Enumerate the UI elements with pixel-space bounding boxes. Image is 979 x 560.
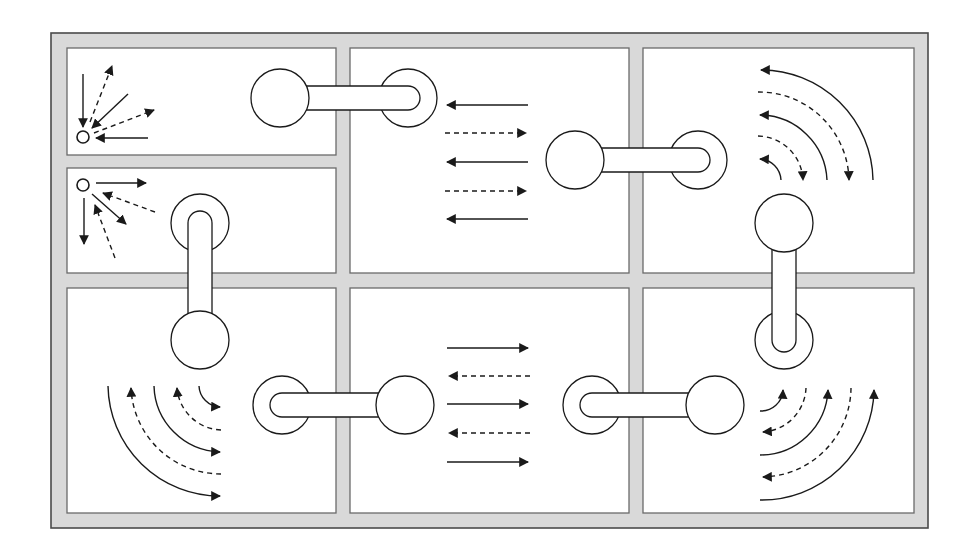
ball-joint	[686, 376, 744, 434]
flow-diagram	[0, 0, 979, 560]
ball-joint	[546, 131, 604, 189]
ball-joint	[171, 311, 229, 369]
ball-joint	[755, 194, 813, 252]
node-diverging	[77, 179, 89, 191]
diagram-stage	[0, 0, 979, 560]
ball-joint	[376, 376, 434, 434]
node-converging	[77, 131, 89, 143]
ball-joint	[251, 69, 309, 127]
